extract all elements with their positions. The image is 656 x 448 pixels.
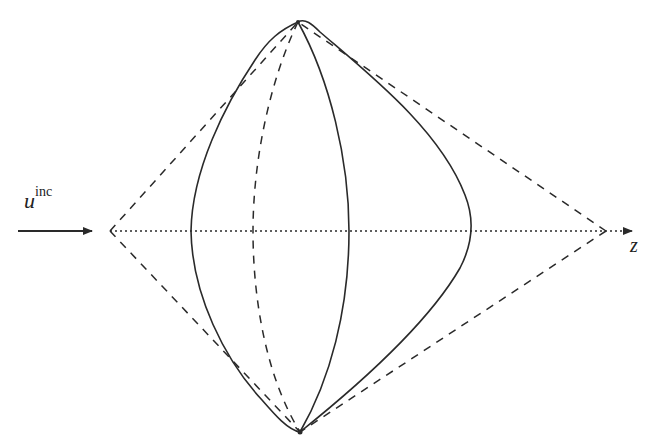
bottom-apex-point <box>298 430 303 435</box>
scattering-diagram <box>0 0 656 448</box>
incident-symbol: u <box>24 188 35 213</box>
incident-superscript: inc <box>35 184 52 199</box>
z-axis-label: z <box>630 234 638 257</box>
top-apex-point <box>296 20 300 24</box>
left-cone-upper <box>110 22 298 231</box>
back-meridian <box>253 22 300 432</box>
scatterer-left-profile <box>191 22 300 432</box>
right-cone-lower <box>300 231 606 432</box>
left-cone-lower <box>110 231 300 432</box>
incident-field-label: uinc <box>24 188 52 214</box>
front-meridian <box>298 22 349 432</box>
